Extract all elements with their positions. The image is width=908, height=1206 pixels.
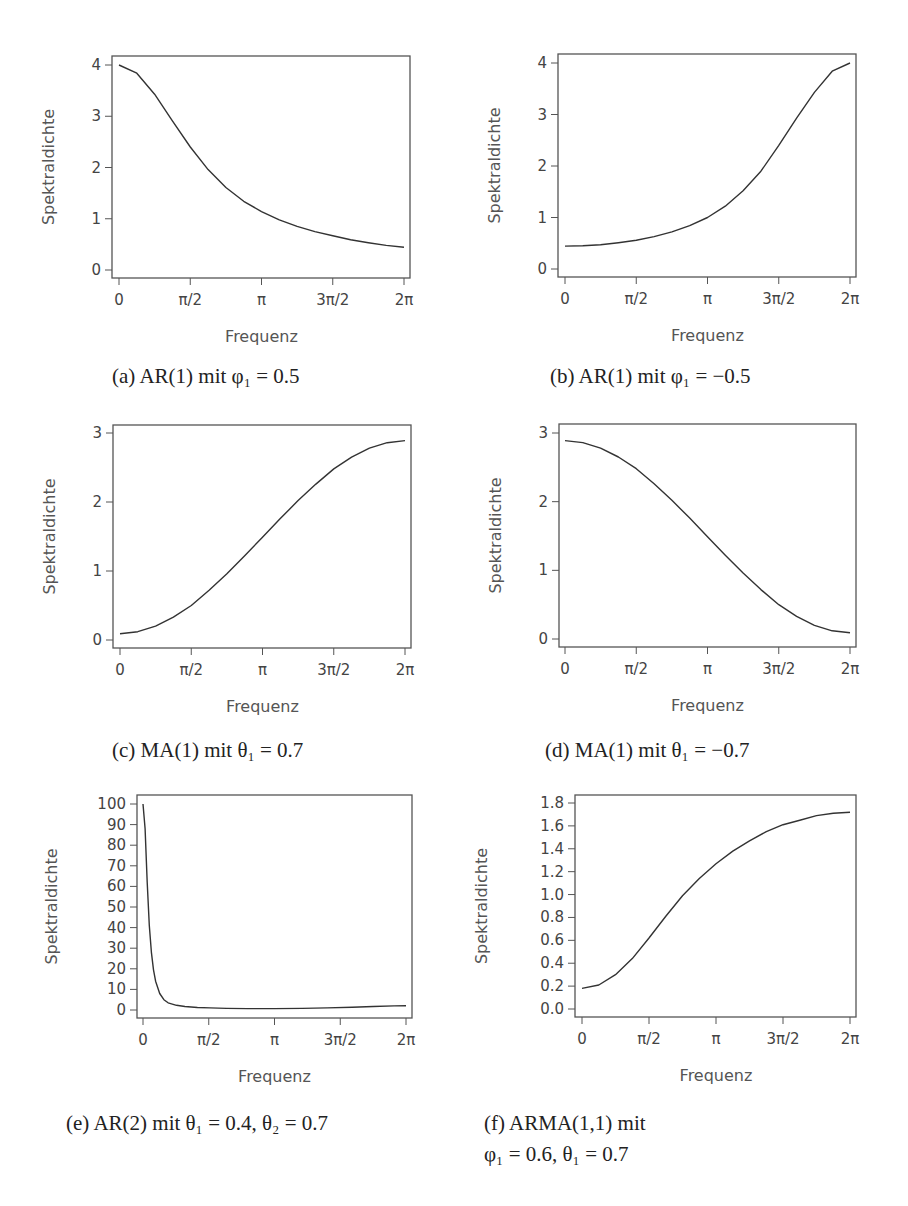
spectral-density-curve — [143, 804, 406, 1009]
y-tick-label: 60 — [107, 877, 126, 895]
x-tick-label: π — [703, 660, 712, 678]
x-tick-label: 3π/2 — [766, 1030, 799, 1048]
x-tick-label: 2π — [841, 290, 860, 308]
chart-panel-f: 0.00.20.40.60.81.01.21.41.61.80π/2π3π/22… — [472, 794, 859, 1085]
y-tick-label: 90 — [107, 816, 126, 834]
x-tick-label: 0 — [138, 1031, 148, 1049]
x-tick-label: 2π — [841, 660, 860, 678]
y-axis-title: Spektraldichte — [39, 109, 58, 225]
spectral-density-curve — [582, 812, 850, 988]
y-tick-label: 0 — [116, 1001, 126, 1019]
chart-panel-e: 01020304050607080901000π/2π3π/22πFrequen… — [42, 795, 415, 1086]
x-tick-label: 2π — [841, 1030, 860, 1048]
spectral-density-curve — [119, 65, 404, 247]
x-tick-label: 3π/2 — [317, 661, 350, 679]
y-tick-label: 0.0 — [540, 1000, 564, 1018]
caption-b: (b) AR(1) mit φ₁ = −0.5 — [550, 361, 751, 392]
y-tick-label: 1 — [92, 562, 102, 580]
x-tick-label: π — [711, 1030, 720, 1048]
y-tick-label: 0.8 — [540, 908, 564, 926]
y-axis-title: Spektraldichte — [40, 478, 59, 594]
x-axis-title: Frequenz — [680, 1066, 753, 1085]
y-tick-label: 0 — [537, 260, 547, 278]
y-tick-label: 1.8 — [540, 794, 564, 812]
y-tick-label: 0 — [92, 631, 102, 649]
x-tick-label: 3π/2 — [762, 660, 795, 678]
y-tick-label: 1.2 — [540, 863, 564, 881]
caption-f-line1: (f) ARMA(1,1) mit — [484, 1108, 646, 1139]
y-tick-label: 20 — [107, 960, 126, 978]
y-tick-label: 4 — [537, 54, 547, 72]
x-tick-label: π/2 — [637, 1030, 661, 1048]
y-tick-label: 3 — [537, 106, 547, 124]
y-tick-label: 2 — [538, 493, 548, 511]
y-tick-label: 30 — [107, 939, 126, 957]
x-axis-title: Frequenz — [238, 1067, 311, 1086]
x-tick-label: 0 — [115, 661, 125, 679]
y-axis-title: Spektraldichte — [486, 477, 505, 593]
y-tick-label: 2 — [91, 159, 101, 177]
caption-f-line2: φ₁ = 0.6, θ₁ = 0.7 — [484, 1139, 629, 1170]
y-tick-label: 3 — [92, 424, 102, 442]
caption-a: (a) AR(1) mit φ₁ = 0.5 — [112, 361, 300, 392]
chart-panel-c: 01230π/2π3π/22πFrequenzSpektraldichte — [40, 424, 414, 716]
y-tick-label: 10 — [107, 980, 126, 998]
x-tick-label: 3π/2 — [316, 291, 349, 309]
x-tick-label: 3π/2 — [762, 290, 795, 308]
plot-frame — [558, 54, 856, 277]
y-tick-label: 2 — [92, 493, 102, 511]
plot-frame — [112, 56, 410, 278]
y-tick-label: 0.2 — [540, 977, 564, 995]
y-tick-label: 2 — [537, 157, 547, 175]
x-tick-label: π/2 — [179, 661, 203, 679]
x-tick-label: π/2 — [178, 291, 202, 309]
plot-frame — [575, 795, 856, 1017]
x-tick-label: π — [270, 1031, 279, 1049]
figure-canvas: 012340π/2π3π/22πFrequenzSpektraldichte01… — [0, 0, 908, 1206]
y-tick-label: 1.0 — [540, 886, 564, 904]
caption-d: (d) MA(1) mit θ₁ = −0.7 — [545, 735, 749, 766]
y-axis-title: Spektraldichte — [42, 848, 61, 964]
caption-c: (c) MA(1) mit θ₁ = 0.7 — [112, 735, 303, 766]
x-axis-title: Frequenz — [671, 326, 744, 345]
y-tick-label: 3 — [538, 424, 548, 442]
spectral-density-curve — [120, 441, 405, 634]
x-tick-label: π/2 — [197, 1031, 221, 1049]
y-axis-title: Spektraldichte — [485, 107, 504, 223]
x-tick-label: 2π — [395, 291, 414, 309]
x-axis-title: Frequenz — [226, 697, 299, 716]
y-tick-label: 0 — [538, 630, 548, 648]
y-tick-label: 3 — [91, 107, 101, 125]
y-tick-label: 0.4 — [540, 954, 564, 972]
y-tick-label: 1 — [537, 209, 547, 227]
plot-frame — [559, 424, 856, 647]
y-tick-label: 80 — [107, 836, 126, 854]
spectral-density-curve — [565, 63, 850, 246]
y-tick-label: 0.6 — [540, 931, 564, 949]
x-axis-title: Frequenz — [225, 327, 298, 346]
y-tick-label: 0 — [91, 261, 101, 279]
x-tick-label: π — [257, 291, 266, 309]
caption-e: (e) AR(2) mit θ₁ = 0.4, θ₂ = 0.7 — [66, 1108, 328, 1139]
x-tick-label: π — [258, 661, 267, 679]
x-tick-label: π/2 — [624, 290, 648, 308]
y-tick-label: 1 — [538, 561, 548, 579]
x-tick-label: 0 — [577, 1030, 587, 1048]
x-tick-label: 2π — [396, 661, 415, 679]
x-tick-label: 0 — [114, 291, 124, 309]
y-tick-label: 70 — [107, 857, 126, 875]
x-tick-label: 3π/2 — [324, 1031, 357, 1049]
y-axis-title: Spektraldichte — [472, 848, 491, 964]
x-tick-label: 2π — [397, 1031, 416, 1049]
plot-frame — [137, 795, 412, 1018]
y-tick-label: 1.4 — [540, 840, 564, 858]
x-axis-title: Frequenz — [671, 696, 744, 715]
y-tick-label: 1.6 — [540, 817, 564, 835]
chart-panel-b: 012340π/2π3π/22πFrequenzSpektraldichte — [485, 54, 859, 345]
x-tick-label: 0 — [560, 290, 570, 308]
y-tick-label: 50 — [107, 898, 126, 916]
y-tick-label: 40 — [107, 919, 126, 937]
plot-frame — [113, 425, 411, 648]
chart-panel-a: 012340π/2π3π/22πFrequenzSpektraldichte — [39, 56, 413, 346]
y-tick-label: 100 — [97, 795, 126, 813]
